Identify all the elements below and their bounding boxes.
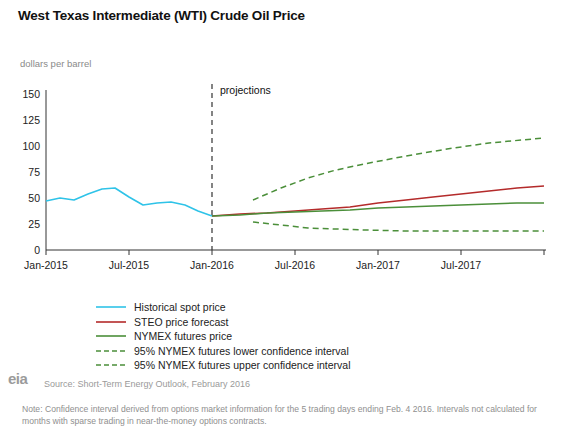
legend-label-historical-spot-price: Historical spot price bbox=[134, 301, 226, 313]
chart-note: Note: Confidence interval derived from o… bbox=[22, 404, 552, 427]
legend-item-nymex-futures-price: NYMEX futures price bbox=[96, 329, 516, 344]
x-axis-tick-labels: Jan-2015 Jul-2015 Jan-2016 Jul-2016 Jan-… bbox=[24, 259, 481, 271]
eia-logo: eia bbox=[8, 370, 42, 392]
x-tick-jan-2016: Jan-2016 bbox=[190, 259, 234, 271]
legend-label-steo-price-forecast: STEO price forecast bbox=[134, 316, 229, 328]
series-nymex-lower-confidence-interval bbox=[253, 222, 544, 231]
y-tick-150: 150 bbox=[22, 88, 40, 100]
legend-swatch-solid-green bbox=[96, 331, 126, 341]
eia-logo-text: eia bbox=[8, 370, 27, 387]
legend-swatch-solid-cyan bbox=[96, 302, 126, 312]
projections-label: projections bbox=[220, 84, 271, 96]
legend-item-historical-spot-price: Historical spot price bbox=[96, 300, 516, 315]
y-tick-0: 0 bbox=[34, 244, 40, 256]
chart-plot-area: 150 125 100 75 50 25 0 Jan-2015 bbox=[0, 78, 573, 278]
y-tick-75: 75 bbox=[28, 166, 40, 178]
x-tick-jan-2017: Jan-2017 bbox=[356, 259, 400, 271]
chart-legend: Historical spot price STEO price forecas… bbox=[96, 300, 516, 373]
legend-label-nymex-upper-confidence-interval: 95% NYMEX futures upper confidence inter… bbox=[134, 359, 351, 371]
series-steo-price-forecast bbox=[212, 186, 544, 216]
y-tick-25: 25 bbox=[28, 218, 40, 230]
x-tick-jul-2016: Jul-2016 bbox=[275, 259, 315, 271]
y-tick-100: 100 bbox=[22, 140, 40, 152]
series-nymex-futures-price bbox=[212, 203, 544, 216]
x-tick-jan-2015: Jan-2015 bbox=[24, 259, 68, 271]
x-tick-jul-2015: Jul-2015 bbox=[109, 259, 149, 271]
legend-label-nymex-futures-price: NYMEX futures price bbox=[134, 330, 232, 342]
series-historical-spot-price bbox=[46, 188, 212, 216]
wti-price-line-chart: 150 125 100 75 50 25 0 Jan-2015 bbox=[0, 78, 573, 278]
legend-swatch-solid-red bbox=[96, 317, 126, 327]
y-tick-50: 50 bbox=[28, 192, 40, 204]
legend-item-nymex-upper-confidence-interval: 95% NYMEX futures upper confidence inter… bbox=[96, 358, 516, 373]
x-axis-ticks bbox=[46, 250, 544, 255]
y-tick-125: 125 bbox=[22, 114, 40, 126]
y-axis-units-label: dollars per barrel bbox=[20, 58, 91, 69]
legend-item-nymex-lower-confidence-interval: 95% NYMEX futures lower confidence inter… bbox=[96, 344, 516, 359]
x-tick-jul-2017: Jul-2017 bbox=[441, 259, 481, 271]
legend-item-steo-price-forecast: STEO price forecast bbox=[96, 315, 516, 330]
chart-source: Source: Short-Term Energy Outlook, Febru… bbox=[44, 379, 250, 389]
legend-label-nymex-lower-confidence-interval: 95% NYMEX futures lower confidence inter… bbox=[134, 345, 349, 357]
legend-swatch-dashed-green-upper bbox=[96, 360, 126, 370]
page-title: West Texas Intermediate (WTI) Crude Oil … bbox=[18, 8, 305, 23]
series-nymex-upper-confidence-interval bbox=[253, 138, 544, 200]
chart-page: West Texas Intermediate (WTI) Crude Oil … bbox=[0, 0, 573, 432]
legend-swatch-dashed-green-lower bbox=[96, 346, 126, 356]
y-axis-tick-labels: 150 125 100 75 50 25 0 bbox=[22, 88, 40, 256]
